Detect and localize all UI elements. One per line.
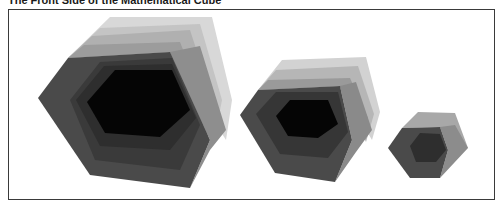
large-cube (38, 17, 232, 188)
cubes-illustration (0, 0, 500, 205)
medium-cube (240, 57, 380, 182)
small-cube (388, 112, 468, 178)
